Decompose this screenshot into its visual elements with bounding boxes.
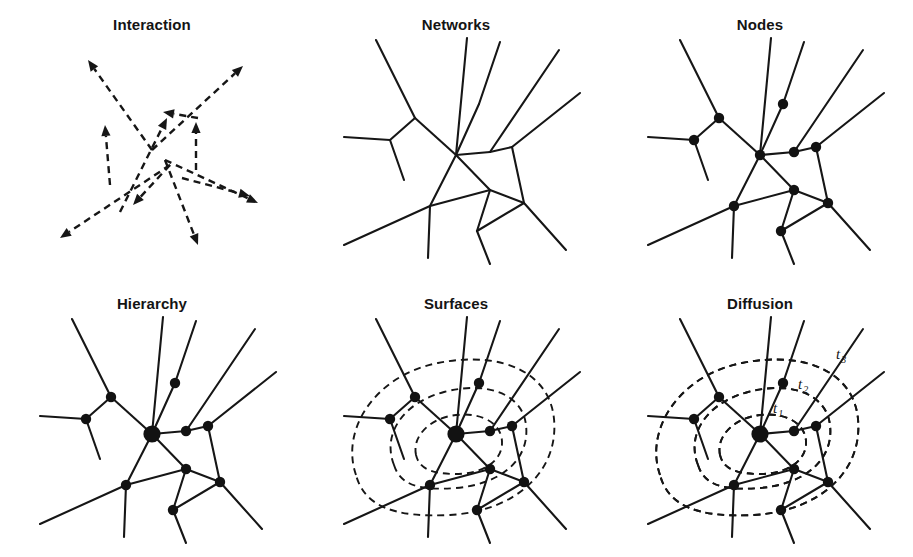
network-node xyxy=(181,426,191,436)
interaction-arrow-head xyxy=(163,109,175,118)
contour-label-sub-t3: 3 xyxy=(840,354,846,365)
network-spoke xyxy=(175,321,196,383)
network-spoke xyxy=(479,42,500,104)
network-edge xyxy=(456,155,490,190)
network-spoke xyxy=(479,321,500,383)
network-spoke xyxy=(344,485,430,524)
panel-title-nodes: Nodes xyxy=(608,16,912,34)
interaction-arrow-head xyxy=(191,122,200,133)
network-node xyxy=(823,198,833,208)
contour-label-sub-t1: 1 xyxy=(778,408,783,419)
network-node xyxy=(519,477,529,487)
network-node xyxy=(755,150,765,160)
interaction-arrow-head xyxy=(158,118,167,130)
network-node xyxy=(729,201,739,211)
network-spoke xyxy=(816,372,884,426)
network-node xyxy=(714,392,724,402)
network-edge xyxy=(760,155,794,190)
network-node xyxy=(385,414,395,424)
network-spoke xyxy=(428,206,430,258)
network-edge xyxy=(126,469,186,485)
network-edge xyxy=(512,147,524,203)
interaction-arrow-shaft xyxy=(165,160,248,198)
network-spoke xyxy=(524,482,566,529)
network-spoke xyxy=(173,510,186,543)
network-spoke xyxy=(760,317,771,434)
network-spoke xyxy=(124,485,126,537)
network-spoke xyxy=(512,372,580,426)
network-spoke xyxy=(72,319,111,397)
network-node xyxy=(181,464,191,474)
network-edge xyxy=(719,118,760,155)
network-edge xyxy=(390,118,415,140)
network-node xyxy=(789,426,799,436)
panel-networks: Networks xyxy=(304,0,608,278)
network-spoke xyxy=(344,137,390,140)
panel-canvas-surfaces xyxy=(304,279,608,557)
interaction-arrow-shaft xyxy=(174,114,198,118)
network-spoke xyxy=(456,38,467,155)
network-edge xyxy=(490,190,524,203)
network-node xyxy=(789,147,799,157)
network-node xyxy=(789,185,799,195)
network-edge xyxy=(734,190,794,206)
network-spoke xyxy=(732,206,734,258)
interaction-arrow-head xyxy=(60,228,72,238)
network-spoke xyxy=(760,38,771,155)
panel-diffusion: t1t2t3Diffusion xyxy=(608,279,912,557)
network-edge xyxy=(816,426,828,482)
network-edge xyxy=(816,147,828,203)
network-spoke xyxy=(428,485,430,537)
network-spoke xyxy=(390,140,404,180)
interaction-arrow-head xyxy=(238,189,250,198)
network-spoke xyxy=(648,137,694,140)
network-concepts-figure: InteractionNetworksNodesHierarchySurface… xyxy=(0,0,913,557)
network-spoke xyxy=(816,93,884,147)
network-edge xyxy=(415,118,456,155)
network-spoke xyxy=(694,140,708,180)
panel-title-surfaces: Surfaces xyxy=(304,295,608,313)
contour-label-t1: t1 xyxy=(773,400,783,419)
network-edges xyxy=(344,38,580,264)
network-node xyxy=(168,505,178,515)
panel-canvas-nodes xyxy=(608,0,912,278)
network-edge xyxy=(430,190,490,206)
network-node xyxy=(485,426,495,436)
panel-canvas-interaction xyxy=(0,0,304,278)
network-node xyxy=(121,480,131,490)
network-spoke xyxy=(828,482,870,529)
network-spoke xyxy=(40,416,86,419)
contour-label-t2: t2 xyxy=(798,376,808,395)
panel-hierarchy: Hierarchy xyxy=(0,279,304,557)
network-node xyxy=(203,421,213,431)
network-spoke xyxy=(477,510,490,543)
network-edge xyxy=(186,469,220,482)
network-spoke xyxy=(152,317,163,434)
network-spoke xyxy=(220,482,262,529)
network-edge xyxy=(794,190,828,203)
network-spoke xyxy=(680,319,719,397)
network-node xyxy=(714,113,724,123)
network-spoke xyxy=(344,416,390,419)
network-node xyxy=(425,480,435,490)
network-edge xyxy=(430,155,456,206)
interaction-arrow-head xyxy=(101,125,110,136)
panel-title-hierarchy: Hierarchy xyxy=(0,295,304,313)
network-spoke xyxy=(477,231,490,264)
network-node xyxy=(778,378,788,388)
panel-title-networks: Networks xyxy=(304,16,608,34)
network-edge xyxy=(456,152,490,155)
network-hub-node xyxy=(143,425,160,442)
network-node xyxy=(778,99,788,109)
network-node xyxy=(474,378,484,388)
network-node xyxy=(472,505,482,515)
panel-nodes: Nodes xyxy=(608,0,912,278)
network-hub-node xyxy=(447,425,464,442)
network-spoke xyxy=(40,485,126,524)
network-node xyxy=(776,226,786,236)
network-node xyxy=(215,477,225,487)
interaction-arrow-head xyxy=(88,60,98,72)
panel-canvas-networks xyxy=(304,0,608,278)
network-spoke xyxy=(648,206,734,245)
network-spoke xyxy=(783,321,804,383)
